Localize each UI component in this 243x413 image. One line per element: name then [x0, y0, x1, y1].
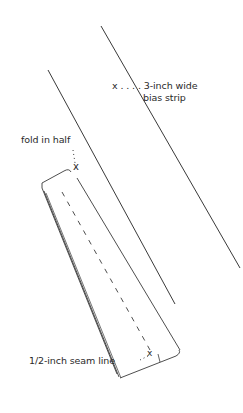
fold-in-half-label: fold in half — [21, 134, 70, 145]
seam-line-label: 1/2-inch seam line — [29, 355, 115, 366]
bias-strip-label-line1: x . . . . 3-inch wide — [112, 80, 197, 91]
seam-x-marker: x — [147, 348, 152, 359]
diagram-canvas: x x x . . . . 3-inch wide bias strip fol… — [0, 0, 243, 413]
bias-strip-label-line2: bias strip — [143, 92, 186, 103]
bias-strip-right-edge — [101, 26, 240, 268]
folded-strip — [42, 170, 180, 378]
fold-x-marker: x — [73, 161, 79, 172]
bias-strip-left-edge — [48, 70, 175, 304]
